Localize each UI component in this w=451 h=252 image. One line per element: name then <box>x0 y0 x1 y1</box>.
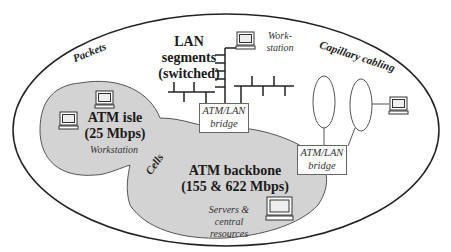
atm-isle-speed: (25 Mbps) <box>80 126 150 142</box>
atm-backbone-speed: (155 & 622 Mbps) <box>175 179 295 195</box>
servers-line3: resources <box>204 228 254 240</box>
bridge-center-line2: bridge <box>200 117 248 130</box>
atm-isle-note: Workstation <box>84 144 144 156</box>
atm-isle-label: ATM isle (25 Mbps) <box>80 110 150 142</box>
workstation-line2: station <box>260 42 300 54</box>
lan-segments-label: LAN segments (switched) <box>158 34 220 82</box>
workstation-line1: Work- <box>260 30 300 42</box>
atm-lan-bridge-right: ATM/LAN bridge <box>297 145 347 175</box>
bridge-right-line1: ATM/LAN <box>298 146 346 159</box>
servers-line1: Servers & <box>204 204 254 216</box>
atm-lan-bridge-center: ATM/LAN bridge <box>199 103 249 133</box>
lan-line3: (switched) <box>158 66 220 82</box>
atm-backbone-title: ATM backbone <box>175 163 295 179</box>
lan-line1: LAN <box>158 34 220 50</box>
atm-backbone-label: ATM backbone (155 & 622 Mbps) <box>175 163 295 195</box>
atm-isle-title: ATM isle <box>80 110 150 126</box>
workstation-label: Work- station <box>260 30 300 54</box>
servers-line2: central <box>204 216 254 228</box>
bridge-right-line2: bridge <box>298 159 346 172</box>
servers-note: Servers & central resources <box>204 204 254 240</box>
lan-line2: segments <box>158 50 220 66</box>
bridge-center-line1: ATM/LAN <box>200 104 248 117</box>
